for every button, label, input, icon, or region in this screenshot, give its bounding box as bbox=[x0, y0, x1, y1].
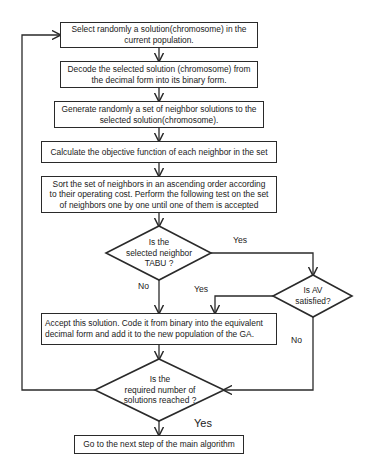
step-generate-line-2: selected solution(chromosome). bbox=[100, 115, 219, 126]
step-decode-line-2: the decimal form into its binary form. bbox=[92, 75, 227, 86]
arrow-av-yes-to-accept bbox=[215, 296, 273, 313]
label-count-yes: Yes bbox=[194, 417, 212, 429]
label-av-no: No bbox=[291, 335, 302, 345]
decision-tabu-line-3: TABU ? bbox=[145, 258, 174, 269]
decision-count-line-1: Is the bbox=[150, 374, 170, 385]
step-select-line-2: current population. bbox=[124, 35, 193, 46]
label-tabu-yes: Yes bbox=[233, 235, 247, 245]
step-sort-line-2: to their operating cost. Perform the fol… bbox=[50, 189, 269, 200]
step-decode: Decode the selected solution (chromosome… bbox=[60, 61, 258, 88]
step-sort: Sort the set of neighbors in an ascendin… bbox=[41, 176, 277, 213]
step-sort-line-1: Sort the set of neighbors in an ascendin… bbox=[53, 179, 266, 190]
step-accept-line-1: Accept this solution. Code it from binar… bbox=[45, 318, 263, 329]
step-next-line-1: Go to the next step of the main algorith… bbox=[83, 439, 234, 450]
step-calculate-line-1: Calculate the objective function of each… bbox=[51, 147, 268, 158]
step-accept-line-2: decimal form and add it to the new popul… bbox=[45, 329, 254, 340]
step-sort-line-3: of neighbors one by one until one of the… bbox=[60, 200, 259, 211]
decision-count: Is the required number of solutions reac… bbox=[95, 359, 225, 421]
step-decode-line-1: Decode the selected solution (chromosome… bbox=[68, 64, 251, 75]
step-generate-line-1: Generate randomly a set of neighbor solu… bbox=[61, 104, 256, 115]
label-av-yes: Yes bbox=[194, 284, 208, 294]
decision-tabu-line-1: Is the bbox=[149, 237, 169, 248]
step-select-line-1: Select randomly a solution(chromosome) i… bbox=[71, 24, 246, 35]
decision-tabu: Is the selected neighbor TABU ? bbox=[106, 226, 212, 280]
decision-av: Is AV satisfied? bbox=[273, 275, 353, 317]
step-next: Go to the next step of the main algorith… bbox=[74, 435, 244, 454]
decision-av-line-2: satisfied? bbox=[295, 296, 330, 307]
decision-count-line-2: required number of bbox=[125, 385, 196, 396]
decision-av-line-1: Is AV bbox=[304, 285, 323, 296]
step-calculate: Calculate the objective function of each… bbox=[41, 141, 277, 163]
decision-count-line-3: solutions reached ? bbox=[124, 395, 197, 406]
arrow-tabu-yes-to-av bbox=[211, 253, 313, 275]
decision-tabu-line-2: selected neighbor bbox=[126, 248, 192, 259]
label-tabu-no: No bbox=[138, 281, 149, 291]
step-select: Select randomly a solution(chromosome) i… bbox=[60, 22, 258, 48]
step-accept: Accept this solution. Code it from binar… bbox=[41, 313, 277, 345]
step-generate: Generate randomly a set of neighbor solu… bbox=[54, 101, 264, 128]
